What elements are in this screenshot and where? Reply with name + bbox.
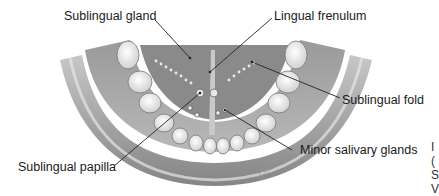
caption-fragment: S [431, 168, 439, 182]
caption-fragment: ( [431, 154, 439, 168]
label-sublingual-fold: Sublingual fold [342, 94, 424, 107]
label-sublingual-papilla: Sublingual papilla [18, 161, 116, 174]
label-minor-salivary-glands: Minor salivary glands [300, 144, 417, 157]
sublingual-papilla-right [210, 89, 218, 97]
caption-fragment: I [431, 140, 439, 154]
label-sublingual-gland: Sublingual gland [64, 10, 156, 23]
caption-fragment: V [431, 182, 439, 196]
cut-off-caption: I ( S V [431, 140, 439, 196]
label-lingual-frenulum: Lingual frenulum [274, 10, 366, 23]
